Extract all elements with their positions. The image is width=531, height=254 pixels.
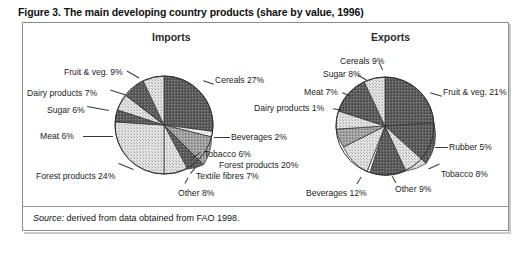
frame-bottom-shadow [24,232,511,234]
imports-panel-heading: Imports [152,31,191,43]
slice-imports-cereals [164,76,213,131]
source-divider [23,206,508,207]
label-exports-sugar: Sugar 8% [323,70,361,79]
label-imports-forest-products-right: Forest products 20% [219,161,298,170]
leader-imports-meat [83,136,113,137]
source-text: derived from data obtained from FAO 1998… [64,213,240,223]
label-imports-fruit-veg: Fruit & veg. 9% [64,68,123,77]
label-exports-fruit-veg: Fruit & veg. 21% [443,88,507,97]
label-imports-cereals: Cereals 27% [215,76,264,85]
label-imports-other: Other 8% [178,189,214,198]
exports-pie-chart [334,75,436,177]
imports-pie-chart [113,74,215,176]
label-imports-sugar: Sugar 6% [47,106,85,115]
label-imports-textile-fibres: Textile fibres 7% [196,172,259,181]
label-imports-tobacco: Tobacco 6% [204,150,251,159]
label-exports-meat: Meat 7% [304,88,338,97]
leader-exports-rubber [435,147,448,148]
label-imports-dairy-products: Dairy products 7% [27,89,97,98]
label-exports-cereals: Cereals 9% [340,57,384,66]
figure-title: Figure 3. The main developing country pr… [18,6,364,18]
label-exports-rubber: Rubber 5% [449,143,492,152]
label-imports-meat: Meat 6% [40,132,74,141]
imports-pie-slices [115,76,213,174]
label-imports-beverages: Beverages 2% [231,133,287,142]
label-exports-other: Other 9% [395,185,431,194]
source-label: Source: [33,213,64,223]
frame-right-shadow [509,24,511,232]
label-exports-tobacco: Tobacco 8% [441,170,488,179]
label-imports-forest-products: Forest products 24% [36,172,115,181]
source-note: Source: derived from data obtained from … [33,213,240,223]
slice-imports-forest-products [115,122,164,174]
leader-imports-beverages [214,137,230,138]
exports-pie-slices [336,77,435,175]
label-exports-dairy-products: Dairy products 1% [254,104,324,113]
figure-container: Figure 3. The main developing country pr… [0,0,531,254]
label-exports-beverages: Beverages 12% [306,189,367,198]
exports-panel-heading: Exports [371,31,410,43]
